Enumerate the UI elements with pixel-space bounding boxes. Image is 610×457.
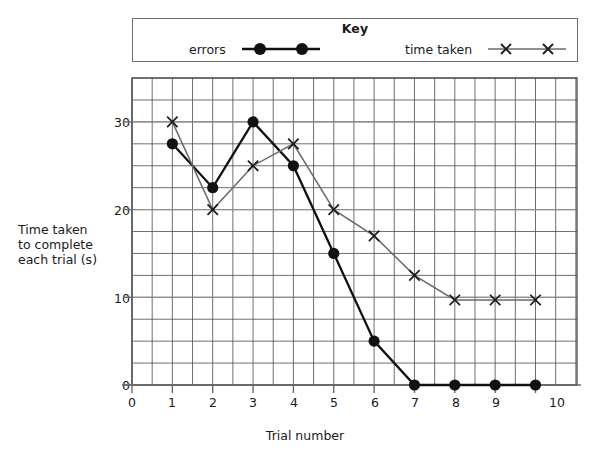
axis-ticks — [123, 122, 536, 393]
data-point-errors-trial-1 — [167, 138, 178, 149]
data-point-errors-trial-7 — [409, 379, 420, 390]
grid-minor — [132, 78, 577, 385]
data-point-errors-trial-6 — [369, 336, 380, 347]
data-point-errors-trial-3 — [247, 116, 258, 127]
plot-canvas — [0, 0, 610, 457]
data-point-errors-trial-10 — [530, 379, 541, 390]
data-point-errors-trial-2 — [207, 182, 218, 193]
data-point-errors-trial-4 — [288, 160, 299, 171]
data-point-errors-trial-5 — [328, 248, 339, 259]
data-point-errors-trial-8 — [449, 379, 460, 390]
data-point-errors-trial-9 — [490, 379, 501, 390]
line-chart: Time taken to complete each trial (s) Tr… — [0, 0, 610, 457]
